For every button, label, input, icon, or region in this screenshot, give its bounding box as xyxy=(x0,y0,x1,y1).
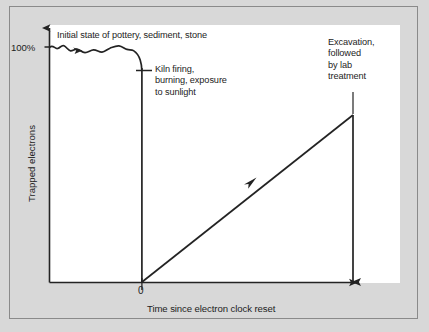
accumulation-ramp-arrowhead xyxy=(244,178,257,189)
x-axis-label: Time since electron clock reset xyxy=(147,303,275,314)
accumulation-ramp xyxy=(142,115,353,282)
initial-state-curve xyxy=(50,46,142,70)
y-tick-label-100: 100% xyxy=(11,42,35,53)
annotation-excavation: Excavation, followed by lab treatment xyxy=(328,37,374,83)
y-axis-label: Trapped electrons xyxy=(26,109,37,219)
figure-container: 100% Initial state of pottery, sediment,… xyxy=(0,0,429,332)
x-origin-label: 0 xyxy=(138,285,143,296)
annotation-initial-state: Initial state of pottery, sediment, ston… xyxy=(57,30,207,41)
annotation-kiln-firing: Kiln firing, burning, exposure to sunlig… xyxy=(155,64,227,98)
